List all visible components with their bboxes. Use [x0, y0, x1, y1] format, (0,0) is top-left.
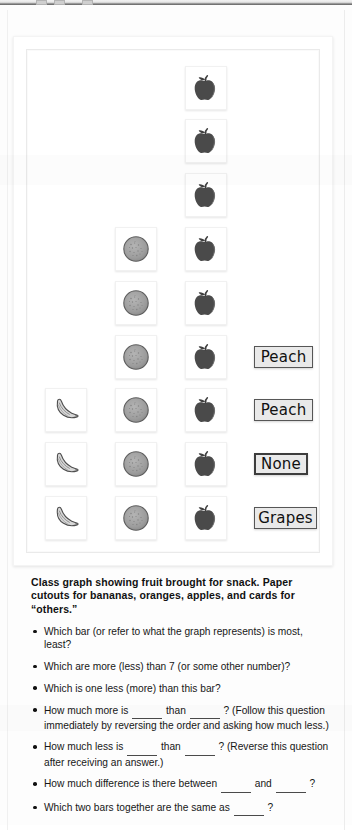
fill-in-blank	[127, 741, 157, 755]
graph-cell-apples	[185, 227, 227, 271]
question-text: Which are more (less) than 7 (or some ot…	[44, 661, 290, 672]
question-text: ?	[265, 802, 274, 813]
apple-icon	[186, 120, 226, 162]
fill-in-blank	[234, 802, 264, 816]
question-text: than	[163, 705, 189, 716]
apple-icon	[186, 174, 226, 216]
question-text: Which is one less (more) than this bar?	[44, 683, 221, 694]
fill-in-blank	[276, 778, 306, 792]
orange-icon	[116, 443, 156, 485]
document-page: PeachPeachNoneGrapes Class graph showing…	[0, 5, 352, 825]
question-text: How much difference is there between	[44, 778, 220, 789]
apple-icon	[186, 443, 226, 485]
question-text: How much more is	[44, 705, 131, 716]
question-list: Which bar (or refer to what the graph re…	[31, 625, 331, 816]
graph-cell-apples	[185, 66, 227, 110]
card-label-text: None	[261, 455, 301, 473]
graph-cell-apples	[185, 496, 227, 540]
fill-in-blank	[221, 778, 251, 792]
question-item: Which two bars together are the same as …	[31, 801, 331, 816]
graph-cell-apples	[185, 335, 227, 379]
page-edge-left	[7, 10, 8, 830]
card-label-grapes-3: Grapes	[254, 507, 317, 529]
graph-plot-area: PeachPeachNoneGrapes	[27, 50, 319, 552]
orange-icon	[116, 228, 156, 270]
graph-cell-apples	[185, 281, 227, 325]
apple-icon	[186, 67, 226, 109]
graph-cell-apples	[185, 442, 227, 486]
question-text: Which two bars together are the same as	[44, 802, 233, 813]
graph-figure-frame: PeachPeachNoneGrapes	[13, 36, 333, 566]
card-label-none-2: None	[254, 453, 308, 475]
apple-icon	[186, 389, 226, 431]
question-text: than	[158, 741, 184, 752]
fill-in-blank	[185, 741, 215, 755]
graph-caption: Class graph showing fruit brought for sn…	[31, 576, 331, 616]
question-text: and	[252, 778, 275, 789]
apple-icon	[186, 228, 226, 270]
graph-cell-oranges	[115, 281, 157, 325]
question-item: How much difference is there between and…	[31, 777, 331, 792]
graph-cell-apples	[185, 119, 227, 163]
graph-cell-oranges	[115, 388, 157, 432]
graph-cell-bananas	[45, 442, 87, 486]
graph-cell-oranges	[115, 496, 157, 540]
card-label-text: Peach	[261, 348, 307, 366]
graph-cell-apples	[185, 173, 227, 217]
question-item: Which bar (or refer to what the graph re…	[31, 625, 331, 651]
card-label-peach-0: Peach	[254, 346, 313, 368]
graph-cell-bananas	[45, 388, 87, 432]
fill-in-blank	[132, 705, 162, 719]
graph-cell-oranges	[115, 227, 157, 271]
question-item: How much more is than ? (Follow this que…	[31, 704, 331, 732]
banana-icon	[46, 389, 86, 431]
question-text: ?	[307, 778, 316, 789]
banana-icon	[46, 443, 86, 485]
card-label-peach-1: Peach	[254, 399, 313, 421]
graph-cell-oranges	[115, 442, 157, 486]
apple-icon	[186, 282, 226, 324]
question-item: Which are more (less) than 7 (or some ot…	[31, 660, 331, 673]
banana-icon	[46, 497, 86, 539]
question-item: How much less is than ? (Reverse this qu…	[31, 740, 331, 768]
orange-icon	[116, 282, 156, 324]
card-label-text: Peach	[261, 401, 307, 419]
graph-cell-bananas	[45, 496, 87, 540]
question-text: Which bar (or refer to what the graph re…	[44, 626, 303, 650]
graph-cell-oranges	[115, 335, 157, 379]
page-edge-right	[344, 10, 345, 830]
caption-and-questions: Class graph showing fruit brought for sn…	[31, 576, 331, 825]
apple-icon	[186, 336, 226, 378]
card-label-text: Grapes	[258, 509, 313, 527]
apple-icon	[186, 497, 226, 539]
orange-icon	[116, 336, 156, 378]
graph-cell-apples	[185, 388, 227, 432]
orange-icon	[116, 497, 156, 539]
orange-icon	[116, 389, 156, 431]
fill-in-blank	[190, 705, 220, 719]
graph-figure-inner: PeachPeachNoneGrapes	[26, 49, 320, 553]
question-item: Which is one less (more) than this bar?	[31, 682, 331, 695]
question-text: How much less is	[44, 741, 126, 752]
